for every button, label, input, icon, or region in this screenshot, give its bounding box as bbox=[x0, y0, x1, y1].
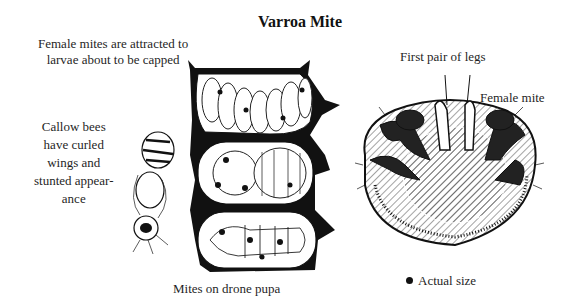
label-callow-line-4: stunted appear- bbox=[34, 172, 114, 190]
label-first-pair-of-legs: First pair of legs bbox=[400, 49, 486, 65]
label-actual-size: Actual size bbox=[406, 273, 476, 289]
label-callow-line-1: Callow bees bbox=[34, 118, 114, 136]
brood-comb-illustration bbox=[150, 60, 340, 275]
callow-bee-illustration bbox=[128, 130, 178, 255]
label-attracted-line-1: Female mites are attracted to bbox=[38, 36, 188, 52]
label-mites-on-drone-pupa: Mites on drone pupa bbox=[173, 281, 280, 297]
female-mite-illustration bbox=[355, 65, 545, 260]
label-callow-line-5: ance bbox=[34, 190, 114, 208]
label-callow-line-3: wings and bbox=[34, 154, 114, 172]
actual-size-dot-icon bbox=[406, 277, 413, 284]
label-callow-bees: Callow bees have curled wings and stunte… bbox=[34, 118, 114, 208]
actual-size-text: Actual size bbox=[418, 273, 476, 288]
diagram-title: Varroa Mite bbox=[258, 13, 342, 31]
label-callow-line-2: have curled bbox=[34, 136, 114, 154]
